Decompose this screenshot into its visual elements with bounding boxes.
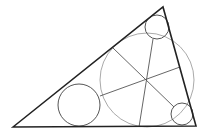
chord-line [139, 39, 153, 127]
triangle-shape [13, 7, 196, 127]
corner-circles [58, 15, 193, 126]
corner-circle [58, 84, 100, 126]
chord-lines [100, 39, 180, 127]
geometry-diagram [0, 0, 206, 134]
chord-line [100, 67, 180, 96]
corner-circle [171, 103, 193, 125]
triangle [13, 7, 196, 127]
